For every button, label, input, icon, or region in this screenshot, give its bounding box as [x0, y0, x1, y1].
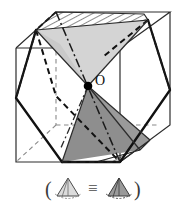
center-point-label: O [95, 73, 105, 88]
dark-pyramid-icon [106, 178, 132, 199]
upper-pyramid [36, 20, 148, 86]
caption-close-paren: ) [134, 178, 141, 201]
figure-root: O ( ≡ ) [0, 0, 181, 206]
congruent-symbol: ≡ [88, 179, 98, 198]
light-pyramid-icon [55, 178, 81, 199]
caption-group: ( ≡ ) [45, 178, 141, 201]
center-point-dot [84, 82, 93, 91]
caption-open-paren: ( [45, 178, 52, 201]
cube-pyramids-figure: O ( ≡ ) [0, 0, 181, 206]
upper-pyramid-face-front [36, 20, 148, 86]
